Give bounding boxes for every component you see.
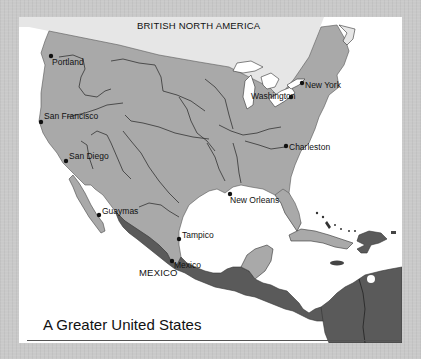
region-label-british-north-america: BRITISH NORTH AMERICA <box>137 20 261 31</box>
bahamas <box>316 212 356 232</box>
city-marker-icon <box>300 81 304 85</box>
puerto-rico <box>391 231 396 234</box>
map-card: BRITISH NORTH AMERICA MEXICO Portland Sa… <box>19 17 402 343</box>
city-new-orleans: New Orleans <box>228 192 279 205</box>
city-mexico: Mexico <box>170 259 201 270</box>
city-label: New Orleans <box>230 195 279 205</box>
lake-maracaibo <box>367 275 375 283</box>
city-guaymas: Guaymas <box>97 206 139 217</box>
city-label: Tampico <box>182 230 214 240</box>
city-label: Mexico <box>174 260 201 270</box>
hispaniola <box>357 231 387 253</box>
city-marker-icon <box>39 120 43 124</box>
city-charleston: Charleston <box>284 142 331 152</box>
city-label: San Diego <box>69 151 109 161</box>
title-underline-divider <box>27 340 402 341</box>
historical-map: BRITISH NORTH AMERICA MEXICO Portland Sa… <box>19 17 402 343</box>
map-title: A Greater United States <box>43 316 201 333</box>
city-label: Portland <box>52 57 84 67</box>
city-label: New York <box>305 80 342 90</box>
city-tampico: Tampico <box>177 230 214 241</box>
south-america-region <box>321 267 402 343</box>
city-washington: Washington <box>251 91 296 101</box>
city-label: Washington <box>251 91 296 101</box>
city-new-york: New York <box>300 80 342 90</box>
jamaica <box>330 261 344 266</box>
city-label: Charleston <box>289 142 330 152</box>
city-marker-icon <box>284 144 288 148</box>
city-marker-icon <box>177 237 181 241</box>
region-label-mexico: MEXICO <box>139 267 178 278</box>
cuba <box>289 229 353 249</box>
city-marker-icon <box>64 159 68 163</box>
city-marker-icon <box>97 213 101 217</box>
city-label: Guaymas <box>102 206 138 216</box>
city-label: San Francisco <box>44 111 99 121</box>
